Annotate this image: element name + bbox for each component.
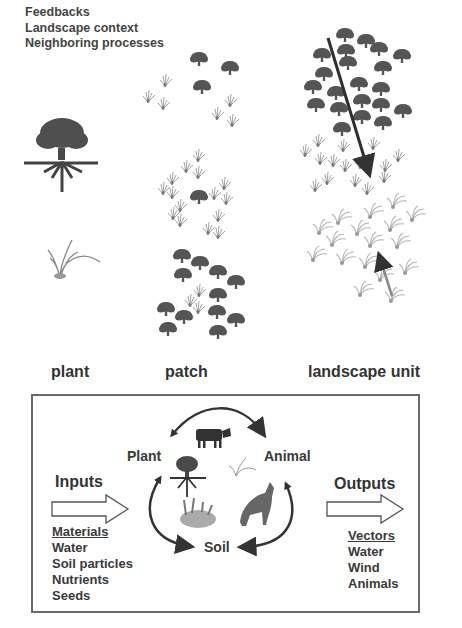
label-feedbacks: Feedbacks xyxy=(25,5,164,21)
label-neighboring-processes: Neighboring processes xyxy=(25,36,164,52)
landscape-mixed-zone xyxy=(300,134,405,195)
landscape-shrub-zone xyxy=(304,28,412,136)
inputs-title: Inputs xyxy=(55,473,103,491)
label-landscape-context: Landscape context xyxy=(25,21,164,37)
scale-label-landscape: landscape unit xyxy=(308,363,420,381)
scale-label-patch: patch xyxy=(165,363,208,381)
output-item: Wind xyxy=(348,560,399,576)
inputs-header: Materials xyxy=(52,524,133,540)
patch-mixed xyxy=(158,149,233,239)
landscape-grass-zone xyxy=(307,193,426,303)
inputs-list: Materials Water Soil particles Nutrients… xyxy=(52,524,133,604)
node-plant: Plant xyxy=(127,448,161,464)
outputs-header: Vectors xyxy=(348,528,399,544)
input-item: Seeds xyxy=(52,588,133,604)
input-item: Nutrients xyxy=(52,572,133,588)
input-item: Water xyxy=(52,540,133,556)
input-item: Soil particles xyxy=(52,556,133,572)
plant-grass-icon xyxy=(48,240,100,279)
plant-tree-icon xyxy=(24,118,98,192)
scale-context-labels: Feedbacks Landscape context Neighboring … xyxy=(25,5,164,52)
output-item: Water xyxy=(348,544,399,560)
node-animal: Animal xyxy=(264,448,311,464)
patch-shrub-dominant xyxy=(143,52,239,127)
patch-grass-dominant xyxy=(157,249,245,339)
output-item: Animals xyxy=(348,576,399,592)
outputs-title: Outputs xyxy=(334,475,395,493)
scale-label-plant: plant xyxy=(51,363,89,381)
node-soil: Soil xyxy=(204,539,230,555)
outputs-list: Vectors Water Wind Animals xyxy=(348,528,399,592)
